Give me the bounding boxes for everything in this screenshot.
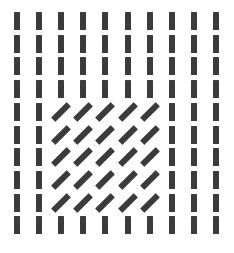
- diagonal-bar: [73, 125, 93, 145]
- diagonal-bar: [118, 170, 138, 190]
- vertical-bar: [36, 126, 42, 144]
- vertical-bar: [58, 57, 64, 75]
- vertical-bar: [80, 80, 86, 98]
- vertical-bar: [125, 57, 131, 75]
- vertical-bar: [102, 216, 108, 234]
- diagonal-bar: [140, 170, 160, 190]
- vertical-bar: [169, 103, 175, 121]
- diagonal-bar: [51, 125, 71, 145]
- vertical-bar: [125, 35, 131, 53]
- vertical-bar: [14, 57, 20, 75]
- vertical-bar: [36, 148, 42, 166]
- vertical-bar: [80, 12, 86, 30]
- vertical-bar: [147, 35, 153, 53]
- diagonal-bar: [140, 102, 160, 122]
- diagonal-bar: [51, 147, 71, 167]
- vertical-bar: [191, 194, 197, 212]
- vertical-bar: [213, 35, 219, 53]
- diagonal-bar: [73, 193, 93, 213]
- diagonal-bar: [140, 193, 160, 213]
- vertical-bar: [191, 57, 197, 75]
- vertical-bar: [36, 171, 42, 189]
- vertical-bar: [58, 216, 64, 234]
- vertical-bar: [36, 103, 42, 121]
- diagonal-bar: [73, 102, 93, 122]
- vertical-bar: [169, 194, 175, 212]
- diagonal-bar: [118, 102, 138, 122]
- vertical-bar: [102, 57, 108, 75]
- vertical-bar: [14, 194, 20, 212]
- vertical-bar: [169, 216, 175, 234]
- diagonal-bar: [118, 193, 138, 213]
- vertical-bar: [14, 12, 20, 30]
- vertical-bar: [191, 35, 197, 53]
- vertical-bar: [191, 12, 197, 30]
- diagonal-bar: [51, 193, 71, 213]
- vertical-bar: [36, 57, 42, 75]
- vertical-bar: [14, 103, 20, 121]
- vertical-bar: [213, 12, 219, 30]
- diagonal-bar: [73, 147, 93, 167]
- vertical-bar: [14, 171, 20, 189]
- vertical-bar: [191, 148, 197, 166]
- diagonal-bar: [118, 147, 138, 167]
- vertical-bar: [191, 126, 197, 144]
- vertical-bar: [58, 35, 64, 53]
- diagonal-bar: [95, 147, 115, 167]
- vertical-bar: [36, 80, 42, 98]
- diagonal-bar: [140, 125, 160, 145]
- vertical-bar: [36, 35, 42, 53]
- vertical-bar: [102, 12, 108, 30]
- vertical-bar: [147, 80, 153, 98]
- vertical-bar: [213, 216, 219, 234]
- vertical-bar: [125, 216, 131, 234]
- vertical-bar: [58, 12, 64, 30]
- vertical-bar: [80, 216, 86, 234]
- texture-grid: [0, 0, 234, 253]
- vertical-bar: [169, 57, 175, 75]
- diagonal-bar: [140, 147, 160, 167]
- vertical-bar: [102, 35, 108, 53]
- vertical-bar: [213, 194, 219, 212]
- vertical-bar: [36, 216, 42, 234]
- vertical-bar: [147, 57, 153, 75]
- vertical-bar: [213, 57, 219, 75]
- vertical-bar: [191, 103, 197, 121]
- vertical-bar: [213, 80, 219, 98]
- vertical-bar: [213, 171, 219, 189]
- vertical-bar: [14, 216, 20, 234]
- vertical-bar: [213, 148, 219, 166]
- vertical-bar: [102, 80, 108, 98]
- vertical-bar: [169, 126, 175, 144]
- vertical-bar: [125, 80, 131, 98]
- vertical-bar: [169, 80, 175, 98]
- vertical-bar: [14, 148, 20, 166]
- vertical-bar: [80, 35, 86, 53]
- vertical-bar: [80, 57, 86, 75]
- diagonal-bar: [118, 125, 138, 145]
- vertical-bar: [14, 35, 20, 53]
- vertical-bar: [213, 103, 219, 121]
- vertical-bar: [169, 12, 175, 30]
- diagonal-bar: [95, 193, 115, 213]
- vertical-bar: [191, 216, 197, 234]
- vertical-bar: [14, 126, 20, 144]
- vertical-bar: [36, 12, 42, 30]
- vertical-bar: [191, 171, 197, 189]
- vertical-bar: [169, 35, 175, 53]
- diagonal-bar: [51, 170, 71, 190]
- vertical-bar: [147, 12, 153, 30]
- vertical-bar: [213, 126, 219, 144]
- vertical-bar: [58, 80, 64, 98]
- vertical-bar: [169, 148, 175, 166]
- diagonal-bar: [95, 170, 115, 190]
- vertical-bar: [14, 80, 20, 98]
- diagonal-bar: [95, 102, 115, 122]
- vertical-bar: [147, 216, 153, 234]
- diagonal-bar: [95, 125, 115, 145]
- diagonal-bar: [51, 102, 71, 122]
- vertical-bar: [169, 171, 175, 189]
- vertical-bar: [125, 12, 131, 30]
- diagonal-bar: [73, 170, 93, 190]
- vertical-bar: [191, 80, 197, 98]
